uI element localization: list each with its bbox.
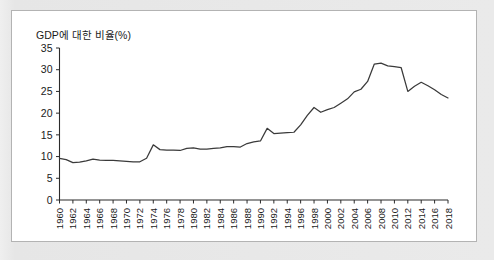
x-tick-label: 1960 bbox=[54, 208, 65, 229]
x-tick-label: 1978 bbox=[175, 208, 186, 229]
x-tick-label: 1998 bbox=[309, 208, 320, 229]
chart-card: GDP에 대한 비율(%) 05101520253035196019621964… bbox=[11, 10, 477, 242]
x-tick-label: 2008 bbox=[376, 208, 387, 229]
y-tick-label: 5 bbox=[47, 172, 53, 184]
data-series-line bbox=[60, 63, 449, 162]
line-chart-svg: 0510152025303519601962196419661968197019… bbox=[12, 11, 478, 243]
x-tick-label: 1964 bbox=[81, 208, 92, 229]
screenshot-root: GDP에 대한 비율(%) 05101520253035196019621964… bbox=[0, 0, 494, 260]
x-tick-label: 2000 bbox=[322, 208, 333, 229]
x-tick-label: 2014 bbox=[416, 208, 427, 229]
x-tick-label: 1984 bbox=[215, 208, 226, 229]
x-tick-label: 1980 bbox=[188, 208, 199, 229]
x-tick-label: 1972 bbox=[134, 208, 145, 229]
x-tick-label: 1990 bbox=[255, 208, 266, 229]
y-tick-label: 25 bbox=[41, 85, 53, 97]
x-tick-label: 1986 bbox=[228, 208, 239, 229]
x-tick-label: 1996 bbox=[295, 208, 306, 229]
x-tick-label: 1988 bbox=[242, 208, 253, 229]
x-tick-label: 1974 bbox=[148, 208, 159, 229]
x-tick-label: 2012 bbox=[402, 208, 413, 229]
x-tick-label: 1968 bbox=[108, 208, 119, 229]
y-tick-label: 15 bbox=[41, 129, 53, 141]
x-tick-label: 1982 bbox=[201, 208, 212, 229]
x-tick-label: 1962 bbox=[67, 208, 78, 229]
x-tick-label: 2002 bbox=[335, 208, 346, 229]
x-tick-label: 2018 bbox=[443, 208, 454, 229]
x-tick-label: 2010 bbox=[389, 208, 400, 229]
x-tick-label: 2016 bbox=[429, 208, 440, 229]
x-tick-label: 1970 bbox=[121, 208, 132, 229]
x-tick-label: 1976 bbox=[161, 208, 172, 229]
x-tick-label: 1992 bbox=[268, 208, 279, 229]
y-tick-label: 30 bbox=[41, 63, 53, 75]
chart-plot-area: 0510152025303519601962196419661968197019… bbox=[12, 11, 478, 243]
y-tick-label: 10 bbox=[41, 150, 53, 162]
x-tick-label: 2004 bbox=[349, 208, 360, 229]
x-tick-label: 1994 bbox=[282, 208, 293, 229]
y-tick-label: 20 bbox=[41, 107, 53, 119]
y-tick-label: 35 bbox=[41, 42, 53, 54]
x-tick-label: 2006 bbox=[362, 208, 373, 229]
x-tick-label: 1966 bbox=[94, 208, 105, 229]
y-tick-label: 0 bbox=[47, 194, 53, 206]
